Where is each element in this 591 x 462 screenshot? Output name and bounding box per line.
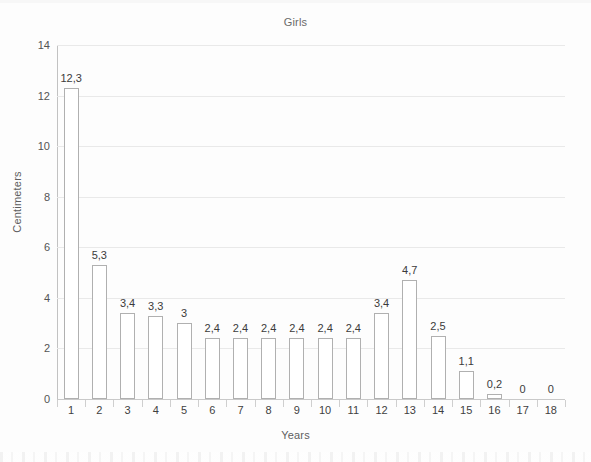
bar-1[interactable] (64, 88, 79, 399)
gridline-y-6 (57, 247, 565, 248)
bar-value-label-14: 2,5 (418, 320, 458, 332)
bar-16[interactable] (487, 394, 502, 399)
y-tick-label-2: 2 (10, 342, 50, 354)
bar-12[interactable] (374, 313, 389, 399)
chart-page: Girls Centimeters 12,35,33,43,332,42,42,… (0, 0, 591, 462)
y-tick-label-0: 0 (10, 393, 50, 405)
bar-7[interactable] (233, 338, 248, 399)
bar-8[interactable] (261, 338, 276, 399)
gridline-y-12 (57, 96, 565, 97)
x-axis-label: Years (0, 429, 591, 441)
bar-6[interactable] (205, 338, 220, 399)
bar-5[interactable] (177, 323, 192, 399)
bar-15[interactable] (459, 371, 474, 399)
bar-value-label-2: 5,3 (79, 249, 119, 261)
bar-value-label-13: 4,7 (390, 264, 430, 276)
y-tick-label-6: 6 (10, 241, 50, 253)
x-tick-mark-end (565, 400, 566, 407)
bar-10[interactable] (318, 338, 333, 399)
bar-11[interactable] (346, 338, 361, 399)
y-tick-label-12: 12 (10, 90, 50, 102)
plot-area: 12,35,33,43,332,42,42,42,42,42,43,44,72,… (57, 45, 565, 399)
bar-value-label-11: 2,4 (333, 322, 373, 334)
y-tick-label-14: 14 (10, 39, 50, 51)
y-tick-label-8: 8 (10, 191, 50, 203)
scan-artifact-bottom (0, 452, 591, 462)
bar-value-label-18: 0 (531, 383, 571, 395)
bar-13[interactable] (402, 280, 417, 399)
bar-value-label-15: 1,1 (446, 355, 486, 367)
chart-title: Girls (0, 16, 591, 28)
gridline-y-8 (57, 197, 565, 198)
bar-4[interactable] (148, 316, 163, 399)
bar-value-label-12: 3,4 (362, 297, 402, 309)
scan-artifact-top (0, 0, 591, 3)
bar-14[interactable] (431, 336, 446, 399)
bar-2[interactable] (92, 265, 107, 399)
y-tick-label-4: 4 (10, 292, 50, 304)
bar-9[interactable] (289, 338, 304, 399)
gridline-y-14 (57, 45, 565, 46)
gridline-y-10 (57, 146, 565, 147)
bar-value-label-1: 12,3 (51, 72, 91, 84)
bar-3[interactable] (120, 313, 135, 399)
bar-value-label-5: 3 (164, 307, 204, 319)
y-tick-label-10: 10 (10, 140, 50, 152)
